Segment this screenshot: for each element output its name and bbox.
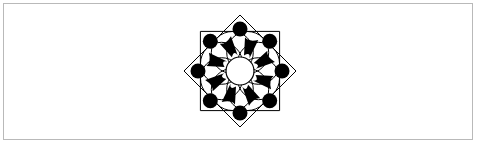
- black-dot: [203, 93, 218, 108]
- black-wedge: [206, 53, 227, 67]
- black-dot: [262, 93, 277, 108]
- black-dot: [233, 106, 248, 121]
- black-dot: [233, 22, 248, 37]
- black-dot: [191, 64, 206, 79]
- black-dot: [203, 34, 218, 49]
- black-wedge: [222, 84, 236, 105]
- black-dot: [262, 34, 277, 49]
- center-circle: [226, 57, 254, 85]
- black-wedge: [253, 75, 274, 89]
- black-wedge: [244, 37, 258, 58]
- black-dot: [275, 64, 290, 79]
- eight-point-star-figure: [0, 0, 478, 151]
